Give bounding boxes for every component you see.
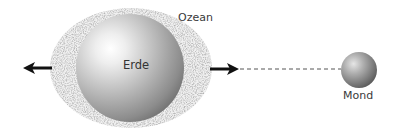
moon-label: Mond: [343, 90, 373, 101]
earth-label: Erde: [123, 60, 149, 72]
arrow-right-icon: [210, 63, 239, 75]
arrow-left-icon: [23, 62, 52, 74]
ocean-label: Ozean: [178, 12, 213, 23]
moon-sphere: [341, 52, 377, 88]
tidal-bulge-diagram: Ozean Erde Mond: [0, 0, 398, 129]
